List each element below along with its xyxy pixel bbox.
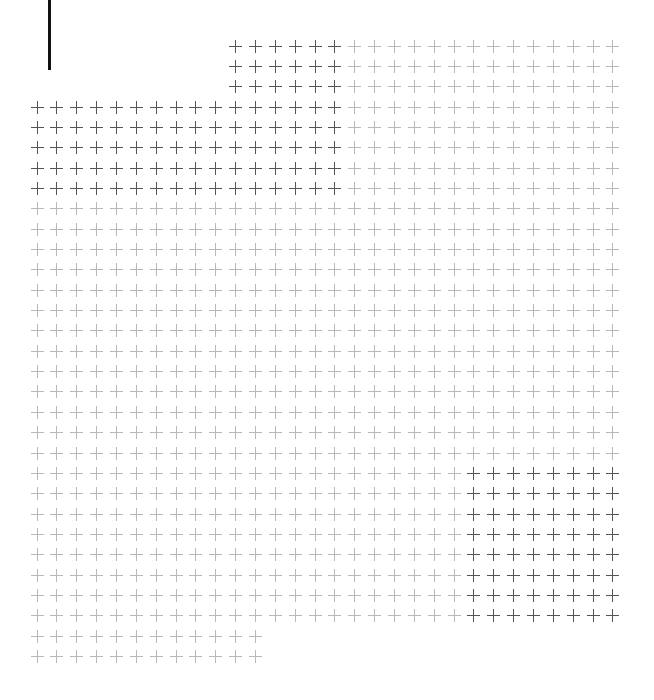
plus-icon <box>567 182 580 195</box>
plus-icon <box>587 162 600 175</box>
plus-icon <box>507 345 520 358</box>
plus-icon <box>408 345 421 358</box>
plus-icon-dark <box>269 60 282 73</box>
plus-icon-dark <box>487 569 500 582</box>
plus-icon <box>70 528 83 541</box>
plus-icon <box>189 650 202 663</box>
plus-icon-dark <box>507 589 520 602</box>
plus-icon <box>547 426 560 439</box>
plus-icon <box>209 630 222 643</box>
plus-icon <box>467 243 480 256</box>
plus-icon <box>170 650 183 663</box>
plus-icon <box>50 385 63 398</box>
plus-icon <box>587 385 600 398</box>
plus-icon <box>110 467 123 480</box>
plus-icon <box>487 60 500 73</box>
plus-icon-dark <box>487 548 500 561</box>
plus-icon <box>487 80 500 93</box>
plus-icon <box>229 345 242 358</box>
plus-icon <box>527 202 540 215</box>
plus-icon <box>31 263 44 276</box>
plus-icon-dark <box>527 467 540 480</box>
plus-icon <box>328 528 341 541</box>
plus-icon <box>50 569 63 582</box>
plus-icon-dark <box>249 101 262 114</box>
plus-icon <box>31 202 44 215</box>
plus-icon <box>90 406 103 419</box>
plus-icon <box>130 467 143 480</box>
plus-icon-dark <box>90 182 103 195</box>
plus-icon <box>209 223 222 236</box>
plus-icon <box>448 467 461 480</box>
plus-icon <box>309 569 322 582</box>
plus-icon <box>50 467 63 480</box>
plus-icon <box>428 284 441 297</box>
plus-icon <box>487 345 500 358</box>
plus-icon <box>606 141 619 154</box>
plus-icon <box>110 630 123 643</box>
plus-icon <box>467 101 480 114</box>
plus-icon <box>368 40 381 53</box>
plus-icon <box>348 508 361 521</box>
plus-icon <box>170 630 183 643</box>
plus-icon <box>209 467 222 480</box>
plus-icon <box>368 304 381 317</box>
plus-icon <box>170 569 183 582</box>
plus-icon <box>189 447 202 460</box>
plus-icon <box>269 385 282 398</box>
plus-icon <box>567 284 580 297</box>
plus-icon-dark <box>130 182 143 195</box>
plus-icon <box>150 284 163 297</box>
plus-icon <box>170 243 183 256</box>
plus-icon <box>567 263 580 276</box>
plus-icon <box>90 569 103 582</box>
plus-icon-dark <box>70 121 83 134</box>
plus-icon <box>408 528 421 541</box>
plus-icon <box>348 569 361 582</box>
plus-icon <box>348 385 361 398</box>
plus-icon <box>90 345 103 358</box>
plus-icon <box>209 202 222 215</box>
plus-icon <box>130 508 143 521</box>
plus-icon-dark <box>328 141 341 154</box>
plus-icon-dark <box>229 40 242 53</box>
plus-icon-dark <box>606 569 619 582</box>
plus-icon <box>368 141 381 154</box>
plus-icon-dark <box>487 467 500 480</box>
plus-icon <box>189 528 202 541</box>
plus-icon-dark <box>309 101 322 114</box>
plus-icon <box>587 304 600 317</box>
plus-icon <box>527 80 540 93</box>
plus-icon-dark <box>507 569 520 582</box>
plus-icon <box>328 365 341 378</box>
plus-icon <box>448 243 461 256</box>
plus-icon <box>547 263 560 276</box>
plus-icon <box>170 304 183 317</box>
plus-icon <box>170 528 183 541</box>
plus-icon <box>189 385 202 398</box>
plus-icon <box>189 406 202 419</box>
plus-icon <box>309 284 322 297</box>
plus-icon <box>487 263 500 276</box>
plus-icon-dark <box>31 101 44 114</box>
plus-icon <box>130 650 143 663</box>
plus-icon <box>408 569 421 582</box>
plus-icon-dark <box>309 80 322 93</box>
plus-icon <box>229 365 242 378</box>
plus-icon <box>448 202 461 215</box>
plus-icon <box>448 182 461 195</box>
plus-icon-dark <box>328 80 341 93</box>
plus-icon <box>328 406 341 419</box>
plus-icon <box>150 426 163 439</box>
plus-icon <box>368 243 381 256</box>
plus-icon <box>368 121 381 134</box>
plus-icon <box>31 426 44 439</box>
plus-icon <box>448 121 461 134</box>
plus-icon <box>70 385 83 398</box>
plus-icon-dark <box>587 609 600 622</box>
plus-icon <box>368 223 381 236</box>
plus-icon <box>110 202 123 215</box>
plus-icon <box>606 406 619 419</box>
plus-icon <box>249 426 262 439</box>
plus-icon <box>428 182 441 195</box>
